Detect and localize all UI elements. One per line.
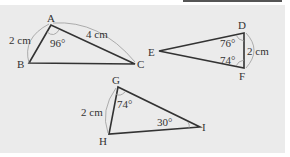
- angle-i-value: 30°: [157, 116, 172, 128]
- angle-f-value: 74°: [220, 54, 235, 66]
- triangles-diagram: A B C 2 cm 4 cm 96° D E F 2 cm 76° 74° G…: [0, 0, 290, 157]
- vertex-d-label: D: [238, 19, 246, 31]
- angle-a-value: 96°: [50, 37, 65, 49]
- vertex-a-label: A: [47, 12, 55, 24]
- side-ab-length: 2 cm: [9, 34, 31, 46]
- vertex-c-label: C: [137, 58, 144, 70]
- triangle-def: D E F 2 cm 76° 74°: [148, 19, 269, 82]
- side-df-length: 2 cm: [247, 45, 269, 57]
- vertex-b-label: B: [17, 58, 24, 70]
- triangle-abc: A B C 2 cm 4 cm 96°: [9, 12, 144, 70]
- vertex-e-label: E: [148, 46, 155, 58]
- triangle-ghi: G H I 2 cm 74° 30°: [81, 74, 206, 147]
- side-gh-length: 2 cm: [81, 106, 103, 118]
- vertex-h-label: H: [99, 135, 107, 147]
- angle-g-value: 74°: [117, 98, 132, 110]
- vertex-g-label: G: [112, 74, 120, 86]
- side-ab-arc: [28, 24, 49, 63]
- vertex-f-label: F: [239, 70, 245, 82]
- angle-d-arc: [236, 35, 244, 41]
- angle-a-arc: [47, 30, 59, 35]
- angle-d-value: 76°: [220, 37, 235, 49]
- angle-f-arc: [236, 60, 244, 66]
- vertex-i-label: I: [202, 121, 206, 133]
- side-ac-length: 4 cm: [86, 28, 108, 40]
